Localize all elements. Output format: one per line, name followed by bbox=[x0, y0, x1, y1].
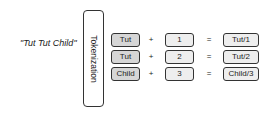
index-box: 1 bbox=[165, 33, 194, 47]
token-box: Tut bbox=[111, 33, 140, 47]
token-box: Child bbox=[111, 67, 140, 81]
index-box: 2 bbox=[165, 50, 194, 64]
plus-operator: + bbox=[146, 52, 156, 61]
plus-operator: + bbox=[146, 69, 156, 78]
plus-operator: + bbox=[146, 35, 156, 44]
index-box: 3 bbox=[165, 67, 194, 81]
equals-operator: = bbox=[204, 35, 214, 44]
input-string: "Tut Tut Child" bbox=[20, 38, 77, 48]
result-box: Tut/1 bbox=[223, 33, 259, 47]
result-box: Tut/2 bbox=[223, 50, 259, 64]
equals-operator: = bbox=[204, 52, 214, 61]
tokenization-label: Tokenization bbox=[89, 35, 99, 82]
token-box: Tut bbox=[111, 50, 140, 64]
equals-operator: = bbox=[204, 69, 214, 78]
result-box: Child/3 bbox=[223, 67, 259, 81]
tokenization-box: Tokenization bbox=[83, 10, 104, 107]
